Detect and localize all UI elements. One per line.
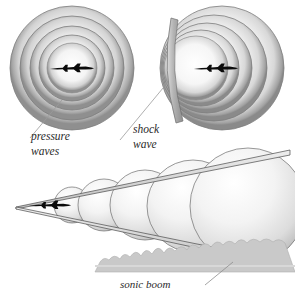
label-pressure-waves-line2: waves xyxy=(31,145,60,157)
mach-cone-panel xyxy=(16,148,295,272)
diagram-canvas: pressure waves shock wave sonic boom xyxy=(0,0,295,297)
sonic-panel xyxy=(160,6,284,130)
label-pressure-waves-line1: pressure xyxy=(30,130,70,143)
label-shock-wave-line1: shock xyxy=(133,123,160,135)
sonic-boom-figure: pressure waves shock wave sonic boom xyxy=(0,0,295,297)
subsonic-panel xyxy=(10,6,134,130)
label-shock-wave-line2: wave xyxy=(133,138,157,150)
label-sonic-boom: sonic boom xyxy=(120,278,170,290)
